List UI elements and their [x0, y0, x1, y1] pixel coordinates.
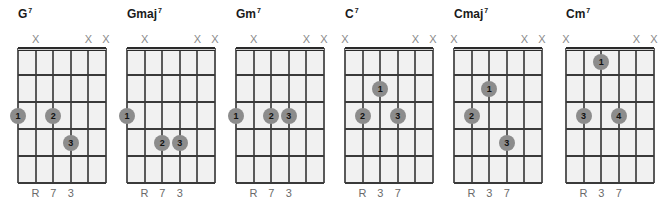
- chord-name: Cmaj: [454, 7, 483, 21]
- chord-title: Gmaj7: [127, 7, 162, 21]
- muted-string-x-icon: X: [536, 33, 548, 45]
- fret-line: [236, 101, 324, 103]
- muted-string-x-icon: X: [82, 33, 94, 45]
- interval-label: R: [578, 187, 590, 199]
- finger-dot: 3: [576, 108, 592, 124]
- string-line: [305, 48, 307, 183]
- fret-line: [345, 74, 433, 76]
- nut: [345, 47, 433, 51]
- nut: [18, 47, 106, 51]
- fret-line: [18, 155, 106, 157]
- fret-line: [18, 128, 106, 130]
- interval-label: 3: [174, 187, 186, 199]
- string-line: [87, 48, 89, 183]
- interval-label: R: [139, 187, 151, 199]
- muted-string-x-icon: X: [209, 33, 221, 45]
- interval-label: 3: [283, 187, 295, 199]
- chord-name: C: [345, 7, 354, 21]
- finger-dot: 1: [372, 81, 388, 97]
- chord-diagram-cmaj7: Cmaj7XXX123R37: [454, 0, 554, 207]
- chord-title: Cm7: [566, 7, 590, 21]
- finger-dot: 3: [172, 135, 188, 151]
- muted-string-x-icon: X: [191, 33, 203, 45]
- nut: [454, 47, 542, 51]
- fret-line: [345, 128, 433, 130]
- interval-label: 7: [47, 187, 59, 199]
- string-line: [161, 48, 163, 183]
- finger-dot: 4: [611, 108, 627, 124]
- finger-dot: 3: [499, 135, 515, 151]
- fret-line: [127, 182, 215, 184]
- fret-line: [454, 128, 542, 130]
- finger-dot: 2: [355, 108, 371, 124]
- fret-line: [18, 182, 106, 184]
- fretboard-grid: 123: [18, 48, 106, 183]
- interval-label: 7: [392, 187, 404, 199]
- muted-string-x-icon: X: [518, 33, 530, 45]
- finger-dot: 1: [228, 108, 244, 124]
- chord-quality-superscript: 7: [484, 7, 488, 14]
- fretboard-grid: 123: [127, 48, 215, 183]
- string-line: [653, 48, 655, 183]
- fret-line: [236, 128, 324, 130]
- interval-label: R: [466, 187, 478, 199]
- string-line: [35, 48, 37, 183]
- string-line: [323, 48, 325, 183]
- string-line: [453, 48, 455, 183]
- fret-line: [566, 155, 654, 157]
- string-line: [506, 48, 508, 183]
- chord-name: Gmaj: [127, 7, 157, 21]
- fret-line: [345, 182, 433, 184]
- muted-string-x-icon: X: [30, 33, 42, 45]
- chord-quality-superscript: 7: [257, 7, 261, 14]
- finger-dot: 1: [593, 54, 609, 70]
- nut: [127, 47, 215, 51]
- chord-quality-superscript: 7: [355, 7, 359, 14]
- fret-line: [127, 155, 215, 157]
- chord-diagram-c7: C7XXX123R37: [345, 0, 445, 207]
- fret-line: [18, 74, 106, 76]
- fretboard-grid: 123: [236, 48, 324, 183]
- fret-line: [566, 74, 654, 76]
- chord-name: Cm: [566, 7, 585, 21]
- fret-line: [345, 155, 433, 157]
- finger-dot: 2: [154, 135, 170, 151]
- muted-string-x-icon: X: [409, 33, 421, 45]
- chord-name: G: [18, 7, 27, 21]
- chord-diagram-gmaj7: Gmaj7XXX123R73: [127, 0, 227, 207]
- chord-quality-superscript: 7: [158, 7, 162, 14]
- muted-string-x-icon: X: [248, 33, 260, 45]
- string-line: [70, 48, 72, 183]
- fret-line: [454, 101, 542, 103]
- muted-string-x-icon: X: [139, 33, 151, 45]
- finger-dot: 2: [263, 108, 279, 124]
- finger-dot: 2: [464, 108, 480, 124]
- interval-label: 3: [374, 187, 386, 199]
- string-line: [179, 48, 181, 183]
- muted-string-x-icon: X: [339, 33, 351, 45]
- string-line: [635, 48, 637, 183]
- interval-label: 3: [595, 187, 607, 199]
- finger-dot: 1: [481, 81, 497, 97]
- string-line: [196, 48, 198, 183]
- chord-title: G7: [18, 7, 32, 21]
- string-line: [344, 48, 346, 183]
- fret-line: [127, 128, 215, 130]
- finger-dot: 2: [45, 108, 61, 124]
- fret-line: [127, 74, 215, 76]
- chord-quality-superscript: 7: [28, 7, 32, 14]
- fretboard-grid: 123: [454, 48, 542, 183]
- interval-label: 7: [501, 187, 513, 199]
- interval-label: 3: [483, 187, 495, 199]
- chord-title: Cmaj7: [454, 7, 488, 21]
- chord-diagram-g7: G7XXX123R73: [18, 0, 118, 207]
- string-line: [253, 48, 255, 183]
- finger-dot: 3: [63, 135, 79, 151]
- fret-line: [127, 101, 215, 103]
- fret-line: [566, 128, 654, 130]
- fretboard-grid: 123: [345, 48, 433, 183]
- fret-line: [236, 74, 324, 76]
- finger-dot: 1: [119, 108, 135, 124]
- fretboard-grid: 134: [566, 48, 654, 183]
- string-line: [379, 48, 381, 183]
